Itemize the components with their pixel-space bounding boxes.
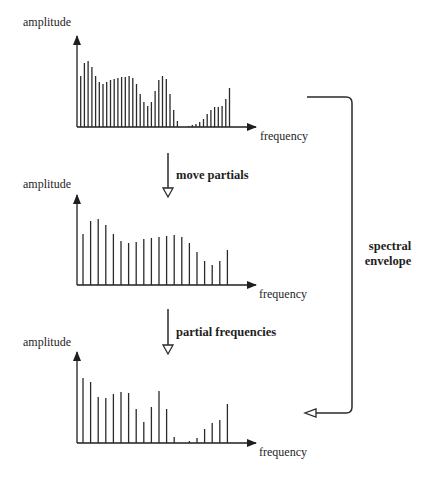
panel-original-spectrum: amplitude frequency <box>23 15 308 143</box>
y-axis-label: amplitude <box>23 15 71 29</box>
y-axis-label: amplitude <box>23 177 71 191</box>
partials-bars <box>83 378 227 443</box>
x-axis-label: frequency <box>259 287 307 301</box>
envelope-label-line2: envelope <box>365 254 412 268</box>
partials-bars <box>83 219 227 285</box>
step-partial-frequencies: partial frequencies <box>163 309 276 354</box>
x-axis-label: frequency <box>260 129 308 143</box>
hollow-arrowhead-icon <box>163 188 173 197</box>
step-move-partials: move partials <box>163 153 249 197</box>
step-label-partial-frequencies: partial frequencies <box>176 325 276 339</box>
partials-bars <box>81 61 230 127</box>
spectral-envelope-diagram: amplitude frequency move partials amplit… <box>0 0 423 480</box>
hollow-arrowhead-left-icon <box>305 409 316 417</box>
bracket-arrow-icon <box>307 97 352 413</box>
envelope-label-line1: spectral <box>369 239 412 253</box>
panel-envelope-spectrum: amplitude frequency <box>23 177 307 301</box>
y-axis-label: amplitude <box>23 335 71 349</box>
spectral-envelope-connector: spectral envelope <box>305 97 412 417</box>
panel-result-spectrum: amplitude frequency <box>23 335 307 459</box>
x-axis-label: frequency <box>259 445 307 459</box>
hollow-arrowhead-icon <box>163 345 173 354</box>
step-label-move-partials: move partials <box>176 168 249 182</box>
